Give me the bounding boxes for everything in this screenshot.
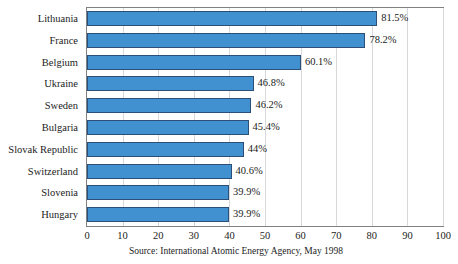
bar-row: 60.1% — [87, 52, 443, 74]
bar[interactable] — [87, 207, 229, 222]
category-label: Slovak Republic — [8, 139, 78, 161]
x-tick-label: 60 — [295, 229, 306, 243]
bar-value-label: 46.8% — [258, 75, 285, 91]
bar-value-label: 60.1% — [305, 54, 332, 70]
x-tick-label: 80 — [367, 229, 378, 243]
x-tick-label: 10 — [117, 229, 128, 243]
bar[interactable] — [87, 76, 254, 91]
category-label: Slovenia — [41, 182, 78, 204]
bar-row: 46.2% — [87, 95, 443, 117]
category-label: Switzerland — [28, 161, 78, 183]
source-note: Source: International Atomic Energy Agen… — [0, 245, 458, 258]
x-tick-label: 40 — [224, 229, 235, 243]
bar[interactable] — [87, 11, 377, 26]
bar-value-label: 81.5% — [381, 10, 408, 26]
bar-row: 46.8% — [87, 73, 443, 95]
bar[interactable] — [87, 33, 365, 48]
x-tick-label: 0 — [84, 229, 89, 243]
bar-row: 39.9% — [87, 182, 443, 204]
bar-row: 78.2% — [87, 30, 443, 52]
category-label: Belgium — [42, 52, 78, 74]
bar-row: 45.4% — [87, 117, 443, 139]
category-label: Bulgaria — [42, 117, 78, 139]
bar-value-label: 39.9% — [233, 206, 260, 222]
bar-row: 39.9% — [87, 204, 443, 226]
bar[interactable] — [87, 142, 244, 157]
bar[interactable] — [87, 120, 249, 135]
category-axis-labels: LithuaniaFranceBelgiumUkraineSwedenBulga… — [0, 7, 82, 227]
category-label: France — [49, 30, 78, 52]
bar-row: 44% — [87, 139, 443, 161]
x-tick-label: 100 — [435, 229, 451, 243]
bar[interactable] — [87, 98, 251, 113]
x-tick-label: 30 — [189, 229, 200, 243]
category-label: Sweden — [45, 95, 78, 117]
x-tick-label: 70 — [331, 229, 342, 243]
bar-row: 81.5% — [87, 8, 443, 30]
bar-value-label: 78.2% — [369, 32, 396, 48]
plot-area: 81.5%78.2%60.1%46.8%46.2%45.4%44%40.6%39… — [86, 7, 444, 227]
category-label: Hungary — [41, 204, 78, 226]
x-tick-label: 50 — [260, 229, 271, 243]
bar-value-label: 40.6% — [236, 163, 263, 179]
x-tick-label: 90 — [402, 229, 413, 243]
bar-value-label: 39.9% — [233, 184, 260, 200]
bar-chart: LithuaniaFranceBelgiumUkraineSwedenBulga… — [0, 0, 458, 264]
bar-value-label: 46.2% — [255, 97, 282, 113]
bar[interactable] — [87, 55, 301, 70]
bar-row: 40.6% — [87, 161, 443, 183]
bar-value-label: 44% — [248, 141, 267, 157]
bar[interactable] — [87, 164, 232, 179]
x-axis-tick-labels: 0102030405060708090100 — [86, 229, 444, 243]
bar[interactable] — [87, 185, 229, 200]
bar-value-label: 45.4% — [253, 119, 280, 135]
gridline-100 — [443, 8, 444, 226]
category-label: Lithuania — [38, 8, 78, 30]
category-label: Ukraine — [44, 73, 78, 95]
clipped-chart-title — [0, 0, 458, 6]
x-tick-label: 20 — [153, 229, 164, 243]
bars-layer: 81.5%78.2%60.1%46.8%46.2%45.4%44%40.6%39… — [87, 8, 443, 226]
